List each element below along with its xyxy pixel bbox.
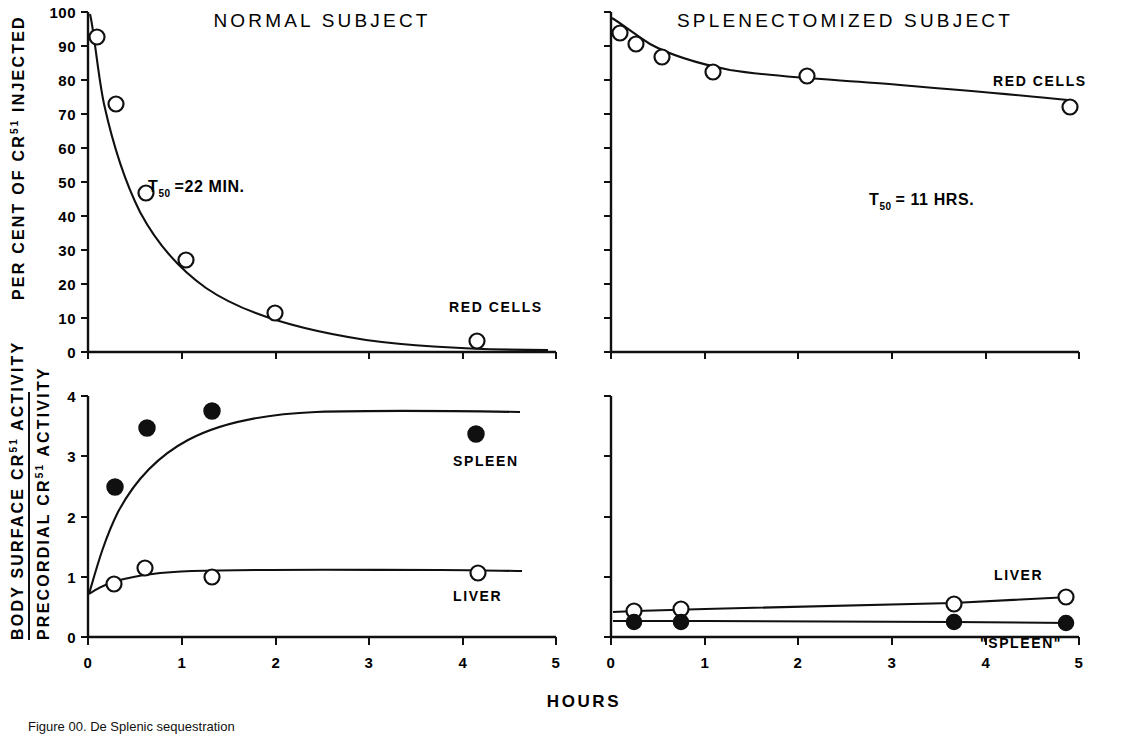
- xtick-label: 1: [701, 654, 710, 671]
- xtick-label: 4: [459, 654, 468, 671]
- series-label-spleen-left: SPLEEN: [453, 453, 519, 469]
- data-point: [107, 479, 123, 495]
- ytick-label: 70: [58, 106, 76, 123]
- panel-bottom-right: LIVER "SPLEEN" 0 1 2 3 4 5: [604, 396, 1083, 671]
- annotation-t50-normal: T50 =22 MIN.: [148, 178, 245, 199]
- xtick-label: 0: [607, 654, 616, 671]
- data-point: [109, 97, 124, 112]
- data-point: [138, 561, 153, 576]
- panel-title-normal: NORMAL SUBJECT: [213, 10, 430, 31]
- series-label-red-cells-right: RED CELLS: [993, 73, 1087, 89]
- panel-title-splenectomized: SPLENECTOMIZED SUBJECT: [677, 10, 1013, 31]
- xtick-label: 2: [272, 654, 281, 671]
- data-point: [629, 37, 644, 52]
- ytick-label: 10: [58, 310, 76, 327]
- data-point: [674, 615, 689, 630]
- markers-splenectomized-red-cells: [613, 26, 1078, 115]
- xtick-label: 4: [982, 654, 991, 671]
- xtick-label: 5: [1075, 654, 1084, 671]
- x-axis-title: HOURS: [547, 692, 621, 711]
- ytick-label: 40: [58, 208, 76, 225]
- ytick-label: 50: [58, 174, 76, 191]
- ytick-label: 4: [67, 388, 76, 405]
- data-point: [107, 577, 122, 592]
- data-point: [470, 334, 485, 349]
- data-point: [471, 566, 486, 581]
- data-point: [1059, 616, 1074, 631]
- ytick-label: 30: [58, 242, 76, 259]
- series-label-liver-left: LIVER: [453, 588, 502, 604]
- xtick-label: 2: [794, 654, 803, 671]
- data-point: [205, 570, 220, 585]
- ytick-label: 100: [49, 4, 76, 21]
- top-left-y-axis-title: PER CENT OF CR51 INJECTED: [9, 15, 27, 300]
- ytick-label: 3: [67, 448, 76, 465]
- annotation-t50-splenectomized: T50 = 11 HRS.: [869, 191, 974, 212]
- data-point: [613, 26, 628, 41]
- data-point: [947, 597, 962, 612]
- y-axis-title-numerator: BODY SURFACE CR51 ACTIVITY: [8, 341, 26, 640]
- ytick-label: 0: [67, 629, 76, 646]
- data-point: [1059, 590, 1074, 605]
- figure-panel-grid: 100 90 80 70 60 50 40 30 20 10 0 PER CEN…: [0, 0, 1137, 737]
- series-label-spleen-right: "SPLEEN": [980, 635, 1062, 651]
- data-point: [1063, 100, 1078, 115]
- panel-bottom-left: 4 3 2 1 0 BODY SURFACE CR51 ACTIVITY PRE…: [8, 341, 560, 671]
- xtick-label: 3: [365, 654, 374, 671]
- curve-normal-spleen: [89, 411, 520, 594]
- series-label-liver-right: LIVER: [994, 567, 1043, 583]
- data-point: [179, 253, 194, 268]
- data-point: [139, 420, 155, 436]
- data-point: [627, 615, 642, 630]
- markers-splenectomized-liver: [627, 590, 1074, 619]
- data-point: [706, 65, 721, 80]
- y-axis-title-denominator: PRECORDIAL CR51 ACTIVITY: [34, 366, 52, 640]
- ytick-label: 60: [58, 140, 76, 157]
- figure-caption: Figure 00. De Splenic sequestration: [28, 719, 235, 737]
- markers-normal-spleen: [107, 403, 484, 495]
- data-point: [468, 426, 484, 442]
- ytick-label: 80: [58, 72, 76, 89]
- data-point: [800, 69, 815, 84]
- xtick-label: 0: [84, 654, 93, 671]
- figure-svg: 100 90 80 70 60 50 40 30 20 10 0 PER CEN…: [0, 0, 1137, 737]
- xtick-label: 1: [178, 654, 187, 671]
- series-label-red-cells-left: RED CELLS: [449, 299, 543, 315]
- panel-top-right: SPLENECTOMIZED SUBJECT T50 = 11 HRS. RED…: [604, 10, 1087, 359]
- markers-normal-liver: [107, 561, 486, 592]
- ytick-label: 0: [67, 344, 76, 361]
- bottom-left-y-axis-title: BODY SURFACE CR51 ACTIVITY PRECORDIAL CR…: [8, 341, 52, 640]
- ytick-label: 20: [58, 276, 76, 293]
- panel-top-left: 100 90 80 70 60 50 40 30 20 10 0 PER CEN…: [9, 4, 556, 361]
- ytick-label: 1: [67, 569, 76, 586]
- data-point: [90, 30, 105, 45]
- xtick-label: 3: [888, 654, 897, 671]
- ytick-label: 90: [58, 38, 76, 55]
- data-point: [655, 50, 670, 65]
- ytick-label: 2: [67, 509, 76, 526]
- data-point: [204, 403, 220, 419]
- data-point: [268, 306, 283, 321]
- xtick-label: 5: [552, 654, 561, 671]
- data-point: [947, 615, 962, 630]
